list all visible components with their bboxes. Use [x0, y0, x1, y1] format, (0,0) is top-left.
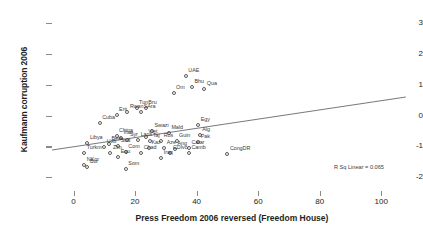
y-axis-tick-label: -1	[381, 142, 423, 150]
y-axis-tick-label: 0	[381, 112, 423, 120]
data-point-label: Equ	[121, 149, 130, 154]
data-point-label: Bhu	[195, 79, 204, 84]
x-axis-tick	[258, 191, 259, 196]
data-point-label: Erit	[119, 107, 127, 112]
y-axis-tick	[46, 23, 52, 24]
x-axis-tick	[381, 191, 382, 196]
data-point-label: Rwan	[130, 104, 144, 109]
y-axis-line	[0, 0, 1, 174]
y-axis-tick-label: 2	[381, 50, 423, 58]
data-point[interactable]	[124, 167, 128, 171]
data-point-label: Alg	[202, 127, 210, 132]
y-axis-tick	[46, 177, 52, 178]
data-point-label: Camb	[191, 145, 205, 150]
y-axis-tick-label: 3	[381, 19, 423, 27]
data-point-label: SAra	[144, 104, 156, 109]
x-axis-tick	[135, 191, 136, 196]
plot-area: R Sq Linear = 0.065 UAEBhuQuaOmTunBruSAr…	[52, 17, 412, 191]
data-point-label: Rus	[164, 133, 173, 138]
y-axis-tick-label: -2	[381, 173, 423, 181]
data-point[interactable]	[115, 113, 119, 117]
data-point-label: Laos	[141, 132, 153, 137]
data-point-label: Iraq	[164, 150, 173, 155]
data-point[interactable]	[187, 151, 191, 155]
data-point-label: Syr	[130, 132, 138, 137]
x-axis-tick-label: 0	[59, 198, 89, 206]
y-axis-tick	[46, 146, 52, 147]
data-point[interactable]	[139, 110, 143, 114]
data-point-label: CongDR	[230, 146, 250, 151]
x-axis-tick-label: 80	[305, 198, 335, 206]
data-point-label: Qua	[207, 81, 217, 86]
x-axis-tick-label: 60	[243, 198, 273, 206]
y-axis-tick	[46, 116, 52, 117]
data-point-label: Som	[128, 161, 139, 166]
data-point[interactable]	[184, 74, 188, 78]
data-point-label: Turkm	[87, 145, 102, 150]
x-axis-title: Press Freedom 2006 reversed (Freedom Hou…	[52, 214, 412, 223]
data-point[interactable]	[98, 121, 102, 125]
x-axis-tick	[197, 191, 198, 196]
data-point-label: Guin	[179, 133, 190, 138]
data-point-label: UAE	[188, 68, 199, 73]
data-point-label: Taj	[153, 133, 160, 138]
data-point-label: Egy	[201, 117, 210, 122]
data-point[interactable]	[136, 138, 140, 142]
y-axis-tick-label: 1	[381, 81, 423, 89]
scatter-plot-figure: Kaufmann corruption 2006 Press Freedom 2…	[0, 0, 423, 236]
x-axis-tick-label: 20	[120, 198, 150, 206]
data-point[interactable]	[116, 155, 120, 159]
data-point-label: Om	[176, 85, 185, 90]
data-point-label: CDIvo	[173, 145, 188, 150]
data-point-label: Libya	[90, 135, 103, 140]
x-axis-tick	[74, 191, 75, 196]
x-axis-tick-label: 40	[182, 198, 212, 206]
data-point-label: Mald	[171, 125, 182, 130]
data-point-label: Cuba	[102, 115, 115, 120]
data-point[interactable]	[172, 91, 176, 95]
x-axis-tick-label: 100	[366, 198, 396, 206]
data-point-label: Chad	[144, 145, 157, 150]
y-axis-tick	[46, 54, 52, 55]
x-axis-tick	[320, 191, 321, 196]
y-axis-title: Kaufmann corruption 2006	[20, 25, 29, 175]
y-axis-tick	[46, 85, 52, 86]
data-point-label: Bur	[90, 159, 98, 164]
r-squared-annotation: R Sq Linear = 0.065	[334, 164, 384, 170]
